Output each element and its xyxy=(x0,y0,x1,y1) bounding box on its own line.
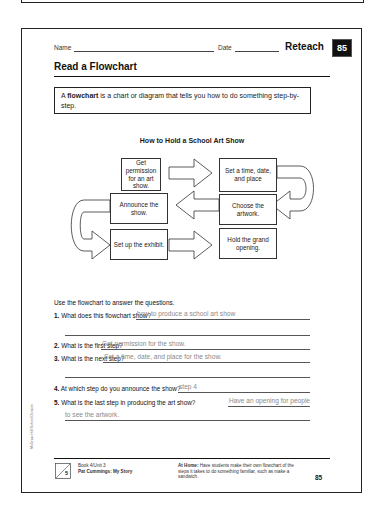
question-number: 4. xyxy=(54,385,59,392)
arrow-left-icon xyxy=(176,191,219,219)
arrow-right-icon xyxy=(169,159,212,187)
flowchart-arrows xyxy=(22,29,363,494)
answer-3[interactable]: Set a time, date, and place for the show… xyxy=(104,353,222,360)
answer-line xyxy=(65,420,310,421)
question-4: 4. At which step do you announce the sho… xyxy=(54,385,181,392)
answer-line xyxy=(101,349,310,350)
previous-page-edge xyxy=(21,0,364,3)
flowchart-step-1: Get permission for an art show. xyxy=(121,158,161,191)
arrow-right-icon xyxy=(169,231,212,259)
unit-number: 5 xyxy=(65,470,68,476)
question-number: 1. xyxy=(54,312,59,319)
answer-1[interactable]: how to produce a school art show xyxy=(137,310,235,317)
publisher-credit: McGraw-Hill School Division xyxy=(30,404,34,449)
answer-2[interactable]: Get permission for the show. xyxy=(102,340,186,347)
flowchart-step-3: Choose the artwork. xyxy=(219,194,277,225)
question-5: 5. What is the last step in producing th… xyxy=(54,399,195,406)
question-number: 3. xyxy=(54,355,59,362)
worksheet-page: Name Date Reteach 85 Read a Flowchart A … xyxy=(21,28,362,493)
footer-rule xyxy=(54,458,330,459)
flowchart-step-6: Hold the grand opening. xyxy=(219,228,277,259)
answer-line xyxy=(136,319,310,320)
answer-4[interactable]: step 4 xyxy=(179,383,197,390)
at-home-label: At Home: xyxy=(178,463,198,468)
unit-number-icon xyxy=(55,463,71,479)
answer-5-continued[interactable]: to see the artwork. xyxy=(65,411,119,418)
answer-5[interactable]: Have an opening for people xyxy=(229,397,310,404)
question-number: 2. xyxy=(54,342,59,349)
answer-line xyxy=(103,362,310,363)
page-number: 85 xyxy=(315,474,322,481)
flowchart-step-2: Set a time, date, and place xyxy=(219,158,277,192)
story-title: Pat Cummings: My Story xyxy=(78,469,132,475)
answer-line xyxy=(228,406,310,407)
question-text: At which step do you announce the show? xyxy=(61,385,181,392)
answer-line xyxy=(65,335,310,336)
flowchart-step-4: Announce the show. xyxy=(110,193,168,224)
instructions: Use the flowchart to answer the question… xyxy=(54,299,174,306)
answer-line xyxy=(178,392,310,393)
question-number: 5. xyxy=(54,399,59,406)
answer-line xyxy=(65,377,310,378)
question-text: What is the last step in producing the a… xyxy=(61,399,195,406)
curved-arrow-icon xyxy=(71,200,110,259)
curved-arrow-icon xyxy=(272,166,314,219)
flowchart-step-5: Set up the exhibit. xyxy=(110,229,168,260)
book-info: Book 4/Unit 3 Pat Cummings: My Story xyxy=(78,463,132,474)
at-home-note: At Home: Have students make their own fl… xyxy=(178,463,303,480)
